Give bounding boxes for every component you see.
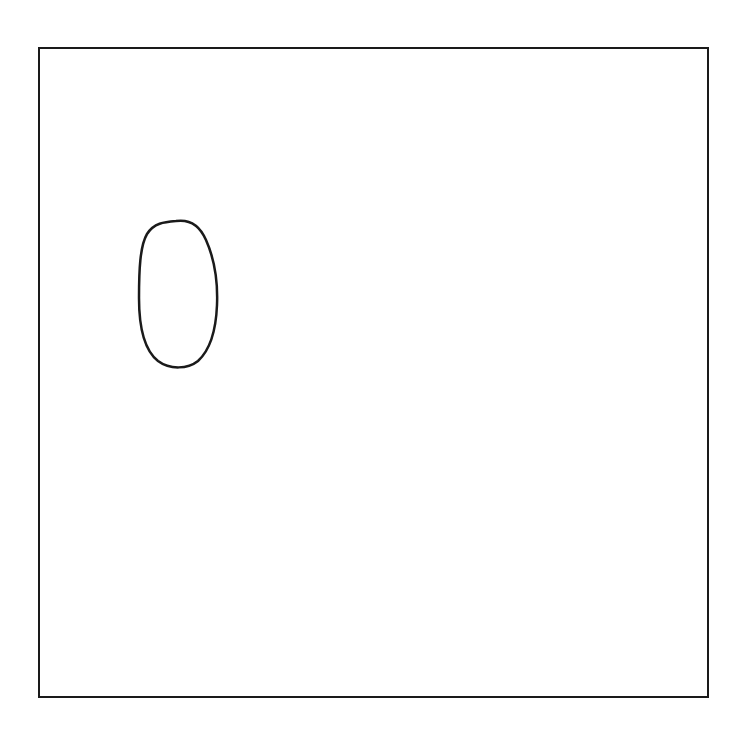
frame-border: [39, 48, 708, 697]
drawing-canvas: [0, 0, 742, 736]
hand-drawn-oval: [139, 221, 217, 368]
